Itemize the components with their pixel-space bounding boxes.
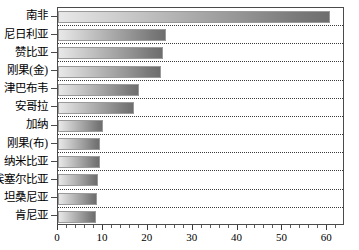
bar-刚果(布) — [58, 138, 100, 150]
bar-row — [58, 190, 343, 208]
y-axis-label-3: 刚果(金) — [0, 62, 52, 80]
x-tick-minor — [120, 225, 121, 228]
x-axis-tick-label: 60 — [321, 231, 332, 243]
bar-row — [58, 62, 343, 80]
bar-坦桑尼亚 — [58, 193, 97, 205]
x-tick-minor — [165, 225, 166, 228]
y-axis-label-7: 刚果(布) — [0, 134, 52, 152]
x-tick-major — [237, 225, 238, 230]
x-tick-major — [147, 225, 148, 230]
x-tick-minor — [317, 225, 318, 228]
y-axis-label-9: 埃塞尔比亚 — [0, 171, 52, 189]
bar-row — [58, 26, 343, 44]
bar-津巴布韦 — [58, 84, 139, 96]
x-tick-minor — [263, 225, 264, 228]
x-tick-minor — [335, 225, 336, 228]
y-axis-label-11: 肯尼亚 — [0, 207, 52, 225]
x-tick-minor — [75, 225, 76, 228]
x-tick-minor — [84, 225, 85, 228]
x-tick-minor — [129, 225, 130, 228]
bar-肯尼亚 — [58, 211, 96, 223]
x-tick-minor — [183, 225, 184, 228]
y-axis-label-4: 津巴布韦 — [0, 80, 52, 98]
y-axis-label-2: 赞比亚 — [0, 43, 52, 61]
plot-area — [57, 7, 344, 225]
x-tick-minor — [290, 225, 291, 228]
bar-赞比亚 — [58, 47, 163, 59]
x-tick-minor — [201, 225, 202, 228]
x-tick-minor — [138, 225, 139, 228]
x-tick-minor — [299, 225, 300, 228]
y-axis-label-8: 纳米比亚 — [0, 152, 52, 170]
bar-chart: 南非 尼日利亚 赞比亚 刚果(金) 津巴布韦 安哥拉 加纳 刚果(布) 纳米比亚… — [0, 0, 359, 250]
y-axis-category-labels: 南非 尼日利亚 赞比亚 刚果(金) 津巴布韦 安哥拉 加纳 刚果(布) 纳米比亚… — [0, 7, 52, 225]
y-axis-label-5: 安哥拉 — [0, 98, 52, 116]
bar-安哥拉 — [58, 102, 134, 114]
bar-row — [58, 117, 343, 135]
bar-row — [58, 44, 343, 62]
x-tick-minor — [272, 225, 273, 228]
x-axis-tick-label: 50 — [276, 231, 287, 243]
x-tick-minor — [308, 225, 309, 228]
x-tick-minor — [254, 225, 255, 228]
bar-row — [58, 99, 343, 117]
bar-加纳 — [58, 120, 103, 132]
x-axis-tick-label: 40 — [231, 231, 242, 243]
bar-row — [58, 153, 343, 171]
x-tick-minor — [228, 225, 229, 228]
bar-刚果(金) — [58, 66, 161, 78]
y-axis-label-6: 加纳 — [0, 116, 52, 134]
x-axis: 0102030405060 — [57, 225, 344, 250]
x-tick-minor — [219, 225, 220, 228]
x-tick-minor — [93, 225, 94, 228]
y-axis-label-1: 尼日利亚 — [0, 25, 52, 43]
x-tick-major — [102, 225, 103, 230]
x-tick-minor — [111, 225, 112, 228]
x-tick-major — [57, 225, 58, 230]
bar-row — [58, 171, 343, 189]
x-tick-major — [192, 225, 193, 230]
x-tick-major — [281, 225, 282, 230]
x-tick-major — [326, 225, 327, 230]
x-tick-minor — [210, 225, 211, 228]
x-axis-tick-label: 30 — [186, 231, 197, 243]
x-tick-minor — [174, 225, 175, 228]
y-axis-label-0: 南非 — [0, 7, 52, 25]
x-axis-tick-label: 20 — [141, 231, 152, 243]
bar-row — [58, 8, 343, 26]
x-tick-minor — [156, 225, 157, 228]
x-axis-tick-label: 10 — [96, 231, 107, 243]
x-tick-minor — [246, 225, 247, 228]
bar-row — [58, 81, 343, 99]
x-axis-tick-label: 0 — [54, 231, 60, 243]
x-tick-minor — [66, 225, 67, 228]
y-axis-label-10: 坦桑尼亚 — [0, 189, 52, 207]
bar-埃塞尔比亚 — [58, 174, 98, 186]
bar-row — [58, 208, 343, 225]
bar-纳米比亚 — [58, 156, 100, 168]
bar-尼日利亚 — [58, 29, 166, 41]
bar-row — [58, 135, 343, 153]
bar-南非 — [58, 11, 330, 23]
